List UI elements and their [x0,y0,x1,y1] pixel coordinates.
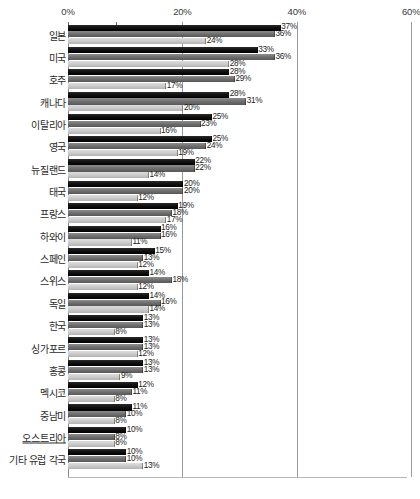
category-label: 미국 [49,49,66,64]
chart-row: 프랑스19%18%17% [0,202,407,224]
bar-group: 20%20%12% [68,181,407,202]
bar-series-2 [68,121,201,127]
bar-value-label: 13% [144,462,160,470]
bar-series-1 [68,270,149,276]
bar-series-3 [68,172,149,178]
bar-value-label: 29% [235,75,251,83]
bar-series-3 [68,61,229,67]
bar-series-2 [68,98,246,104]
category-label: 뉴질랜드 [31,161,66,176]
category-label: 싱가포르 [31,340,66,355]
category-label: 독일 [49,295,66,310]
bar-series-3 [68,217,166,223]
category-label: 이탈리아 [31,117,66,132]
bar-series-1 [68,360,143,366]
bar-series-3 [68,105,183,111]
category-label: 태국 [49,184,66,199]
bar-series-3 [68,38,206,44]
bar-series-3 [68,195,138,201]
chart-row: 일본37%36%24% [0,24,407,46]
chart-row: 스위스14%18%12% [0,269,407,291]
bar-value-label: 8% [115,395,126,403]
bar-series-1 [68,449,126,455]
bar-value-label: 13% [144,321,160,329]
bar-series-1 [68,136,212,142]
bar-series-1 [68,404,132,410]
bar-series-2 [68,31,275,37]
bar-group: 25%23%16% [68,114,407,135]
category-label: 프랑스 [40,206,66,221]
bar-series-1 [68,69,229,75]
category-label: 호주 [49,72,66,87]
bar-group: 28%31%20% [68,92,407,113]
bar-series-2 [68,322,143,328]
category-label: 캐나다 [40,94,66,109]
bar-value-label: 10% [127,455,143,463]
bar-value-label: 12% [138,194,154,202]
bar-group: 14%18%12% [68,270,407,291]
bar-value-label: 12% [138,350,154,358]
bar-value-label: 14% [150,171,166,179]
bar-series-3 [68,351,138,357]
bar-group: 13%13%12% [68,337,407,358]
chart-row: 캐나다28%31%20% [0,91,407,113]
bar-series-2 [68,76,235,82]
bar-group: 14%16%14% [68,293,407,314]
bar-value-label: 11% [132,238,147,246]
category-label: 기타 유럽 각국 [9,452,66,467]
chart-row: 뉴질랜드22%22%14% [0,158,407,180]
chart-row: 싱가포르13%13%12% [0,336,407,358]
category-label: 일본 [49,27,66,42]
bar-series-2 [68,188,183,194]
x-axis-tick-20: 20% [173,6,191,17]
chart-row: 태국20%20%12% [0,180,407,202]
bar-series-3 [68,418,115,424]
bar-series-1 [68,315,143,321]
bar-series-1 [68,92,229,98]
bar-value-label: 33% [258,46,274,54]
category-label: 하와이 [40,228,66,243]
bar-series-3 [68,463,143,469]
chart-row: 하와이16%16%11% [0,225,407,247]
chart-row: 한국13%13%8% [0,314,407,336]
chart-row: 중남미11%10%8% [0,403,407,425]
bar-value-label: 10% [127,410,143,418]
bar-group: 16%16%11% [68,226,407,247]
bar-group: 10%8%8% [68,427,407,448]
chart-row: 영국25%24%19% [0,135,407,157]
bar-value-label: 31% [247,97,263,105]
bar-value-label: 12% [138,283,154,291]
bar-series-2 [68,434,115,440]
bar-value-label: 28% [230,90,246,98]
bar-group: 33%36%28% [68,47,407,68]
category-label: 홍콩 [49,362,66,377]
category-label: 스위스 [40,273,66,288]
x-axis-tick-labels: 0%20%40%60% [0,0,407,22]
bar-series-2 [68,277,172,283]
bar-series-1 [68,114,212,120]
bar-series-1 [68,47,258,53]
chart-row: 오스트리아10%8%8% [0,426,407,448]
bar-value-label: 18% [172,276,188,284]
bar-series-3 [68,441,115,447]
bar-series-1 [68,248,155,254]
bar-value-label: 13% [144,366,160,374]
bar-value-label: 36% [275,53,291,61]
chart-row: 미국33%36%28% [0,46,407,68]
bar-group: 12%11%8% [68,382,407,403]
chart-row: 호주28%29%17% [0,68,407,90]
gridline-60pct [411,22,412,477]
bar-series-3 [68,262,138,268]
bar-series-1 [68,382,138,388]
bar-series-3 [68,306,149,312]
bar-value-label: 20% [184,187,200,195]
x-axis-tick-40: 40% [288,6,306,17]
bar-series-2 [68,344,143,350]
bar-group: 22%22%14% [68,159,407,180]
bar-group: 37%36%24% [68,25,407,46]
x-axis-tick-0: 0% [61,6,74,17]
bar-series-3 [68,284,138,290]
bar-series-3 [68,128,161,134]
bar-series-3 [68,396,115,402]
